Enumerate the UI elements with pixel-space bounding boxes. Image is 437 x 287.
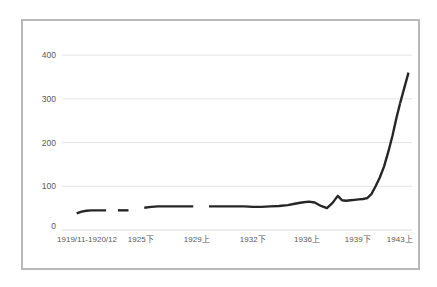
x-tick-label-4: 1936上 <box>294 235 320 244</box>
x-tick-label-2: 1929上 <box>184 235 210 244</box>
gridlines <box>62 55 412 230</box>
y-tick-label-200: 200 <box>42 138 56 148</box>
chart-frame: 0100200300400 1919/11-1920/121925下1929上1… <box>21 19 420 270</box>
y-tick-label-400: 400 <box>42 50 56 60</box>
y-tick-label-100: 100 <box>42 181 56 191</box>
x-axis-tick-labels: 1919/11-1920/121925下1929上1932下1936上1939下… <box>57 235 413 244</box>
y-axis-tick-labels: 0100200300400 <box>42 50 56 231</box>
x-tick-label-5: 1939下 <box>345 235 371 244</box>
x-tick-label-6: 1943上 <box>387 235 413 244</box>
x-tick-label-1: 1925下 <box>128 235 154 244</box>
series-line-segment-0-2 <box>144 206 193 207</box>
x-tick-label-0: 1919/11-1920/12 <box>57 235 117 244</box>
y-tick-label-300: 300 <box>42 94 56 104</box>
x-tick-label-3: 1932下 <box>240 235 266 244</box>
series-line-segment-0-3 <box>209 103 400 208</box>
series-line-segment-0-0 <box>77 210 106 213</box>
y-tick-label-0: 0 <box>51 221 56 231</box>
line-chart: 0100200300400 1919/11-1920/121925下1929上1… <box>23 21 418 268</box>
